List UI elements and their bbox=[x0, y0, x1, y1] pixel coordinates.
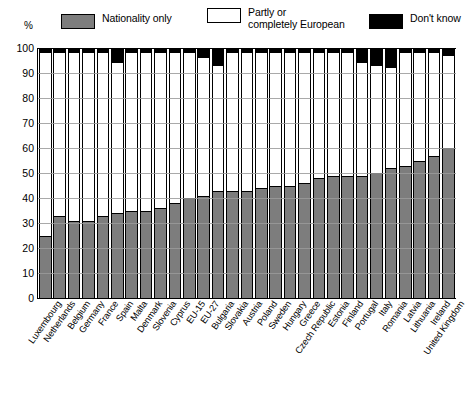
bar-hungary bbox=[284, 48, 297, 298]
legend-label-partly-or-completely-european: Partly or completely European bbox=[248, 7, 345, 30]
bar-portugal bbox=[356, 48, 369, 298]
bar-spain bbox=[111, 48, 124, 298]
legend-item-partly-or-completely-european: Partly or completely European bbox=[207, 7, 345, 30]
segment-nationality-only bbox=[154, 208, 167, 298]
segment-nationality-only bbox=[183, 198, 196, 298]
bar-sweden bbox=[269, 48, 282, 298]
segment-nationality-only bbox=[269, 186, 282, 299]
segment-partly-or-completely-european bbox=[428, 53, 441, 156]
segment-nationality-only bbox=[125, 211, 138, 299]
bar-lithuania bbox=[413, 48, 426, 298]
segment-partly-or-completely-european bbox=[284, 53, 297, 186]
bar-slovenia bbox=[154, 48, 167, 298]
segment-nationality-only bbox=[327, 176, 340, 299]
bar-italy bbox=[370, 48, 383, 298]
segment-partly-or-completely-european bbox=[39, 53, 52, 236]
bar-latvia bbox=[399, 48, 412, 298]
segment-dont-know bbox=[442, 48, 455, 56]
bar-finland bbox=[341, 48, 354, 298]
segment-dont-know bbox=[370, 48, 383, 66]
segment-partly-or-completely-european bbox=[68, 53, 81, 221]
segment-partly-or-completely-european bbox=[241, 53, 254, 191]
bar-eu-27 bbox=[197, 48, 210, 298]
segment-partly-or-completely-european bbox=[212, 66, 225, 191]
segment-nationality-only bbox=[313, 178, 326, 298]
segment-partly-or-completely-european bbox=[140, 53, 153, 211]
bar-belgium bbox=[68, 48, 81, 298]
segment-partly-or-completely-european bbox=[53, 53, 66, 216]
segment-partly-or-completely-european bbox=[385, 68, 398, 168]
segment-nationality-only bbox=[111, 213, 124, 298]
y-tick-40: 40 bbox=[22, 192, 34, 204]
legend-swatch-nationality-only bbox=[61, 14, 95, 29]
x-axis-labels: LuxembourgNetherlandsBelgiumGermanyFranc… bbox=[37, 299, 455, 395]
y-tick-0: 0 bbox=[28, 292, 34, 304]
segment-nationality-only bbox=[197, 196, 210, 299]
segment-partly-or-completely-european bbox=[197, 58, 210, 196]
bar-czech-republic bbox=[313, 48, 326, 298]
segment-nationality-only bbox=[241, 191, 254, 299]
segment-nationality-only bbox=[82, 221, 95, 299]
segment-nationality-only bbox=[341, 176, 354, 299]
y-tick-30: 30 bbox=[22, 217, 34, 229]
y-tick-60: 60 bbox=[22, 142, 34, 154]
segment-partly-or-completely-european bbox=[82, 53, 95, 221]
y-tick-80: 80 bbox=[22, 92, 34, 104]
segment-dont-know bbox=[197, 48, 210, 58]
segment-nationality-only bbox=[284, 186, 297, 299]
segment-nationality-only bbox=[356, 176, 369, 299]
y-tick-90: 90 bbox=[22, 67, 34, 79]
segment-partly-or-completely-european bbox=[327, 53, 340, 176]
bar-austria bbox=[241, 48, 254, 298]
segment-nationality-only bbox=[442, 148, 455, 298]
segment-partly-or-completely-european bbox=[298, 53, 311, 183]
segment-nationality-only bbox=[97, 216, 110, 299]
legend-label-dont-know: Don't know bbox=[410, 13, 461, 25]
y-tick-20: 20 bbox=[22, 242, 34, 254]
bar-united-kingdom bbox=[442, 48, 455, 298]
segment-partly-or-completely-european bbox=[399, 53, 412, 166]
bar-germany bbox=[82, 48, 95, 298]
segment-nationality-only bbox=[413, 161, 426, 299]
bar-greece bbox=[298, 48, 311, 298]
segment-nationality-only bbox=[212, 191, 225, 299]
segment-partly-or-completely-european bbox=[442, 56, 455, 149]
segment-partly-or-completely-european bbox=[356, 63, 369, 176]
segment-dont-know bbox=[356, 48, 369, 63]
segment-partly-or-completely-european bbox=[111, 63, 124, 213]
y-tick-100: 100 bbox=[16, 42, 34, 54]
segment-partly-or-completely-european bbox=[313, 53, 326, 178]
segment-nationality-only bbox=[399, 166, 412, 299]
segment-partly-or-completely-european bbox=[125, 53, 138, 211]
bar-romania bbox=[385, 48, 398, 298]
segment-dont-know bbox=[111, 48, 124, 63]
segment-dont-know bbox=[385, 48, 398, 68]
bar-poland bbox=[255, 48, 268, 298]
segment-nationality-only bbox=[140, 211, 153, 299]
bar-denmark bbox=[140, 48, 153, 298]
y-axis-unit-label: % bbox=[24, 20, 33, 31]
segment-partly-or-completely-european bbox=[255, 53, 268, 188]
segment-nationality-only bbox=[53, 216, 66, 299]
legend-item-nationality-only: Nationality only bbox=[61, 13, 172, 29]
bar-netherlands bbox=[53, 48, 66, 298]
segment-nationality-only bbox=[255, 188, 268, 298]
segment-partly-or-completely-european bbox=[97, 53, 110, 216]
segment-partly-or-completely-european bbox=[413, 53, 426, 161]
bar-eu-15 bbox=[183, 48, 196, 298]
bar-ireland bbox=[428, 48, 441, 298]
segment-nationality-only bbox=[226, 191, 239, 299]
segment-partly-or-completely-european bbox=[169, 53, 182, 203]
segment-nationality-only bbox=[370, 173, 383, 298]
y-tick-10: 10 bbox=[22, 267, 34, 279]
bar-slovakia bbox=[226, 48, 239, 298]
bar-cyprus bbox=[169, 48, 182, 298]
y-tick-70: 70 bbox=[22, 117, 34, 129]
bar-luxembourg bbox=[39, 48, 52, 298]
bar-france bbox=[97, 48, 110, 298]
segment-nationality-only bbox=[39, 236, 52, 299]
segment-partly-or-completely-european bbox=[341, 53, 354, 176]
plot-area: 0102030405060708090100 bbox=[37, 48, 456, 299]
segment-nationality-only bbox=[169, 203, 182, 298]
